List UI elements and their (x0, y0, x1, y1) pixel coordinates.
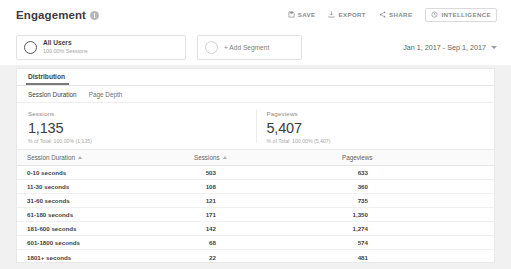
cell-session-duration: 0-10 seconds (17, 169, 185, 176)
cell-sessions: 121 (185, 197, 333, 205)
metric-cards: Sessions 1,135 % of Total: 100.00% (1,13… (17, 103, 494, 150)
table-row[interactable]: 601-1800 seconds68574 (17, 236, 494, 250)
sessions-bar-track (221, 169, 333, 177)
column-label-sessions: Sessions (194, 154, 220, 161)
cell-sessions-value: 68 (194, 239, 216, 246)
cell-pageviews-value: 481 (342, 254, 368, 261)
cell-pageviews: 481 (333, 253, 494, 261)
add-segment-button[interactable]: + Add Segment (197, 35, 302, 60)
cell-session-duration: 61-180 seconds (17, 211, 185, 218)
pageviews-bar-track (373, 169, 494, 177)
cell-pageviews-value: 1,350 (342, 211, 368, 218)
column-header-pageviews[interactable]: Pageviews (333, 154, 494, 161)
table-body: 0-10 seconds50363311-30 seconds10836031-… (17, 166, 494, 264)
cell-sessions: 108 (185, 183, 333, 191)
report-card: Distribution Session Duration Page Depth… (16, 68, 495, 263)
sub-tab-page-depth[interactable]: Page Depth (89, 91, 123, 98)
cell-sessions-value: 171 (194, 211, 216, 218)
table-row[interactable]: 0-10 seconds503633 (17, 166, 494, 180)
cell-sessions-value: 142 (194, 225, 216, 232)
intelligence-label: INTELLIGENCE (441, 11, 491, 18)
metric-sub-sessions: % of Total: 100.00% (1,135) (28, 138, 256, 144)
sort-ascending-icon (78, 156, 82, 159)
cell-pageviews-value: 735 (342, 197, 368, 204)
metric-card-pageviews: Pageviews 5,407 % of Total: 100.00% (5,4… (256, 103, 495, 149)
pageviews-bar-track (373, 211, 494, 219)
report-header: Engagement SAVE EXPORT (0, 0, 511, 29)
column-label-session-duration: Session Duration (27, 154, 75, 161)
sessions-bar-track (221, 183, 333, 191)
export-label: EXPORT (338, 11, 366, 18)
cell-sessions-value: 503 (194, 169, 216, 176)
cell-session-duration: 31-60 seconds (17, 197, 185, 204)
intelligence-icon (431, 11, 438, 18)
sessions-bar-track (221, 225, 333, 233)
add-segment-ring-icon (205, 41, 218, 54)
tab-row: Distribution (17, 69, 494, 86)
sessions-bar-track (221, 253, 333, 261)
report-toolbar: SAVE EXPORT SHARE (288, 8, 497, 22)
pageviews-bar-track (373, 225, 494, 233)
share-icon (379, 11, 386, 18)
column-header-sessions[interactable]: Sessions (185, 154, 333, 161)
metric-value-sessions: 1,135 (28, 119, 256, 137)
cell-session-duration: 601-1800 seconds (17, 239, 185, 246)
intelligence-button[interactable]: INTELLIGENCE (425, 8, 497, 22)
segment-all-users[interactable]: All Users 100.00% Sessions (16, 35, 186, 60)
table-row[interactable]: 31-60 seconds121735 (17, 194, 494, 208)
save-icon (288, 11, 295, 18)
cell-pageviews: 360 (333, 183, 494, 191)
table-header: Session Duration Sessions Pageviews (17, 150, 494, 166)
segment-name: All Users (43, 39, 88, 48)
sessions-bar-track (221, 211, 333, 219)
date-range-label: Jan 1, 2017 - Sep 1, 2017 (403, 43, 486, 52)
segment-text-group: All Users 100.00% Sessions (43, 39, 88, 55)
cell-sessions: 503 (185, 169, 333, 177)
table-row[interactable]: 1801+ seconds22481 (17, 250, 494, 264)
cell-pageviews: 1,350 (333, 211, 494, 219)
pageviews-bar-track (373, 197, 494, 205)
cell-session-duration: 181-600 seconds (17, 225, 185, 232)
tab-distribution[interactable]: Distribution (26, 73, 69, 85)
cell-pageviews: 574 (333, 239, 494, 247)
export-button[interactable]: EXPORT (328, 11, 366, 18)
analytics-report-page: Engagement SAVE EXPORT (0, 0, 511, 269)
segment-ring-icon (24, 41, 37, 54)
column-label-pageviews: Pageviews (342, 154, 372, 161)
pageviews-bar-track (373, 239, 494, 247)
column-header-session-duration[interactable]: Session Duration (17, 154, 185, 161)
info-icon[interactable] (90, 11, 99, 20)
table-row[interactable]: 61-180 seconds1711,350 (17, 208, 494, 222)
cell-pageviews-value: 1,274 (342, 225, 368, 232)
cell-sessions-value: 22 (194, 254, 216, 261)
export-icon (328, 11, 335, 18)
share-button[interactable]: SHARE (379, 11, 412, 18)
share-label: SHARE (389, 11, 412, 18)
cell-sessions-value: 108 (194, 183, 216, 190)
cell-sessions: 171 (185, 211, 333, 219)
sessions-bar-track (221, 239, 333, 247)
page-title: Engagement (16, 9, 86, 21)
table-row[interactable]: 11-30 seconds108360 (17, 180, 494, 194)
chevron-down-icon (491, 46, 497, 49)
cell-pageviews-value: 360 (342, 183, 368, 190)
cell-session-duration: 1801+ seconds (17, 254, 185, 261)
date-range-selector[interactable]: Jan 1, 2017 - Sep 1, 2017 (403, 43, 497, 52)
pageviews-bar-track (373, 183, 494, 191)
cell-pageviews: 633 (333, 169, 494, 177)
cell-sessions-value: 121 (194, 197, 216, 204)
sub-tab-session-duration[interactable]: Session Duration (28, 91, 77, 98)
cell-pageviews: 1,274 (333, 225, 494, 233)
cell-sessions: 68 (185, 239, 333, 247)
cell-session-duration: 11-30 seconds (17, 183, 185, 190)
cell-sessions: 22 (185, 253, 333, 261)
pageviews-bar-track (373, 253, 494, 261)
table-row[interactable]: 181-600 seconds1421,274 (17, 222, 494, 236)
save-label: SAVE (298, 11, 316, 18)
cell-pageviews-value: 574 (342, 239, 368, 246)
page-title-group: Engagement (16, 9, 99, 21)
save-button[interactable]: SAVE (288, 11, 316, 18)
segment-bar: All Users 100.00% Sessions + Add Segment… (0, 29, 511, 65)
metric-sub-pageviews: % of Total: 100.00% (5,407) (267, 138, 495, 144)
metric-label-pageviews: Pageviews (267, 110, 495, 117)
